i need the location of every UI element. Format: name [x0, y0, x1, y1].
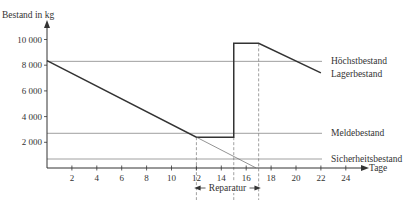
x-tick-label: 8 [144, 173, 149, 183]
x-tick-label: 24 [341, 173, 351, 183]
series-line-lagerbestand [47, 43, 321, 137]
y-tick-label: 10 000 [17, 35, 42, 45]
label-lagerbestand: Lagerbestand [331, 69, 382, 79]
x-tick-label: 2 [70, 173, 75, 183]
axes: 246810121416182022242 0004 0006 0008 000… [2, 10, 387, 183]
label-meldebestand: Meldebestand [331, 128, 385, 138]
x-tick-label: 4 [95, 173, 100, 183]
y-tick-label: 6 000 [22, 86, 43, 96]
x-tick-label: 6 [119, 173, 124, 183]
inventory-chart: 246810121416182022242 0004 0006 0008 000… [0, 0, 418, 215]
x-tick-label: 18 [267, 173, 277, 183]
x-tick-label: 10 [167, 173, 177, 183]
x-tick-label: 20 [292, 173, 302, 183]
series-line-projected-consumption [196, 137, 256, 168]
reference-lines [47, 61, 322, 159]
series [47, 43, 321, 168]
label-höchstbestand: Höchstbestand [331, 56, 387, 66]
x-tick-label: 22 [316, 173, 325, 183]
reparatur-label: Reparatur [209, 183, 247, 193]
x-axis-title: Tage [369, 163, 387, 173]
y-tick-label: 8 000 [22, 60, 43, 70]
label-sicherheitsbestand: Sicherheitsbestand [331, 154, 402, 164]
x-tick-label: 12 [192, 173, 201, 183]
y-tick-label: 2 000 [22, 137, 43, 147]
y-axis-title: Bestand in kg [2, 10, 54, 20]
y-tick-label: 4 000 [22, 112, 43, 122]
